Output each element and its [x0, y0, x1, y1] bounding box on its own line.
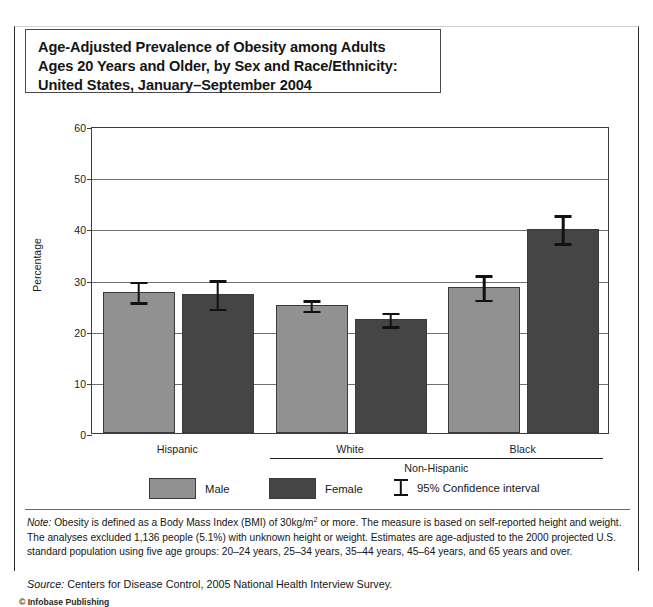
- y-tick-mark-40: [87, 230, 92, 231]
- error-bar-white-male: [300, 300, 324, 313]
- note-lead: Note:: [27, 517, 51, 528]
- confidence-interval-icon: [393, 478, 408, 497]
- bar-black-female: [527, 229, 599, 433]
- source-text: Source: Centers for Disease Control, 200…: [27, 578, 392, 590]
- error-bar-hispanic-female: [206, 280, 230, 311]
- gridline-50: [92, 179, 608, 180]
- legend-swatch-female: [269, 478, 316, 499]
- chart-legend: Male Female 95% Confidence interval: [15, 475, 640, 505]
- legend-item-female: Female: [269, 478, 363, 499]
- y-tick-label-30: 30: [74, 276, 86, 288]
- error-bar-black-male: [472, 275, 496, 302]
- legend-label-female: Female: [325, 483, 363, 495]
- y-tick-mark-0: [87, 435, 92, 436]
- y-tick-label-50: 50: [74, 173, 86, 185]
- y-tick-mark-30: [87, 282, 92, 283]
- copyright-notice: © Infobase Publishing: [19, 597, 109, 607]
- x-label-hispanic: Hispanic: [157, 443, 198, 455]
- y-tick-mark-60: [87, 128, 92, 129]
- page-title: Age-Adjusted Prevalence of Obesity among…: [38, 38, 430, 95]
- bar-hispanic-male: [103, 292, 175, 433]
- y-tick-mark-20: [87, 333, 92, 334]
- y-tick-label-40: 40: [74, 224, 86, 236]
- bar-black-male: [448, 287, 520, 433]
- y-tick-label-10: 10: [74, 378, 86, 390]
- source-lead: Source:: [27, 578, 64, 590]
- y-tick-mark-10: [87, 384, 92, 385]
- non-hispanic-rule: [270, 458, 603, 459]
- error-bar-black-female: [551, 215, 575, 245]
- x-label-non-hispanic: Non-Hispanic: [404, 462, 468, 474]
- figure-frame: Age-Adjusted Prevalence of Obesity among…: [14, 26, 639, 571]
- chart-title-box: Age-Adjusted Prevalence of Obesity among…: [25, 29, 441, 93]
- legend-item-male: Male: [149, 478, 230, 499]
- error-bar-hispanic-male: [127, 282, 151, 306]
- bar-white-male: [276, 305, 348, 433]
- y-tick-label-20: 20: [74, 327, 86, 339]
- x-label-white: White: [336, 443, 363, 455]
- bar-hispanic-female: [182, 294, 254, 433]
- legend-label-male: Male: [205, 483, 230, 495]
- plot-area: 0102030405060: [91, 127, 609, 434]
- bar-white-female: [355, 319, 427, 433]
- plot-wrapper: Percentage 0102030405060 Hispanic White …: [15, 119, 640, 449]
- y-tick-label-0: 0: [80, 429, 86, 441]
- note-text: Note: Obesity is defined as a Body Mass …: [27, 515, 627, 560]
- error-bar-white-female: [379, 313, 403, 329]
- x-label-black: Black: [510, 443, 536, 455]
- note-body-1: Obesity is defined as a Body Mass Index …: [51, 517, 313, 528]
- legend-swatch-male: [149, 478, 196, 499]
- legend-label-ci: 95% Confidence interval: [417, 482, 539, 494]
- notes-divider: [25, 509, 630, 510]
- y-axis-title: Percentage: [31, 205, 43, 325]
- source-body: Centers for Disease Control, 2005 Nation…: [64, 578, 392, 590]
- y-tick-label-60: 60: [74, 122, 86, 134]
- legend-item-ci: 95% Confidence interval: [393, 478, 539, 497]
- y-tick-mark-50: [87, 179, 92, 180]
